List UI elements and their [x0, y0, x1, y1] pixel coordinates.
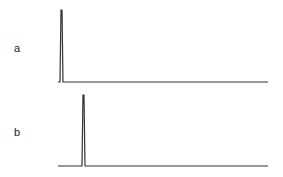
- trace-b: [58, 95, 268, 166]
- trace-a: [58, 10, 268, 82]
- spectra-plot: [0, 0, 283, 177]
